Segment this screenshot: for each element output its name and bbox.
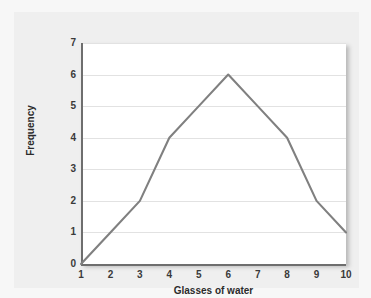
series-line xyxy=(81,75,346,264)
figure-panel: 01234567 12345678910 Glasses of water Fr… xyxy=(14,12,359,288)
y-tick-label: 3 xyxy=(62,164,76,174)
y-tick-label: 2 xyxy=(62,196,76,206)
x-axis-spine xyxy=(81,264,346,266)
x-tick-label: 2 xyxy=(98,269,122,280)
x-tick-label: 9 xyxy=(305,269,329,280)
y-tick-label: 0 xyxy=(62,259,76,269)
y-axis-title: Frequency xyxy=(25,91,36,171)
x-tick-label: 10 xyxy=(334,269,358,280)
chart-screenshot: 01234567 12345678910 Glasses of water Fr… xyxy=(0,0,371,298)
x-tick-label: 8 xyxy=(275,269,299,280)
y-tick-label: 6 xyxy=(62,70,76,80)
y-tick-label: 1 xyxy=(62,227,76,237)
y-tick-label: 7 xyxy=(62,38,76,48)
x-tick-label: 3 xyxy=(128,269,152,280)
y-tick-label: 4 xyxy=(62,133,76,143)
x-tick-label: 1 xyxy=(69,269,93,280)
x-axis-title: Glasses of water xyxy=(81,285,346,296)
x-tick-label: 7 xyxy=(246,269,270,280)
x-axis-tick-labels: 12345678910 xyxy=(81,269,346,283)
x-tick-label: 4 xyxy=(157,269,181,280)
x-tick-label: 5 xyxy=(187,269,211,280)
x-tick-label: 6 xyxy=(216,269,240,280)
y-tick-label: 5 xyxy=(62,101,76,111)
y-axis-tick-labels: 01234567 xyxy=(58,43,76,264)
frequency-polygon-series xyxy=(81,43,346,264)
